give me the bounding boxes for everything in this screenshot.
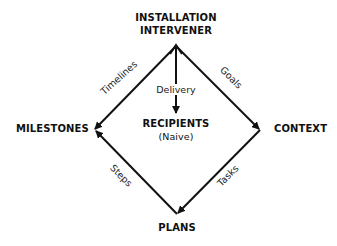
node-context: CONTEXT	[274, 123, 327, 134]
edge-steps	[96, 131, 177, 214]
label-delivery: Delivery	[155, 84, 196, 95]
node-recipients: RECIPIENTS (Naive)	[143, 117, 210, 143]
node-milestones: MILESTONES	[16, 123, 89, 134]
diagram-canvas: INSTALLATION INTERVENER MILESTONES CONTE…	[0, 0, 337, 246]
node-recipients-sub: (Naive)	[143, 130, 210, 143]
node-installation-intervener: INSTALLATION INTERVENER	[135, 11, 216, 37]
node-top-line2: INTERVENER	[140, 25, 212, 36]
node-recipients-label: RECIPIENTS	[143, 118, 210, 129]
node-plans: PLANS	[158, 222, 196, 233]
node-top-line1: INSTALLATION	[135, 12, 216, 23]
